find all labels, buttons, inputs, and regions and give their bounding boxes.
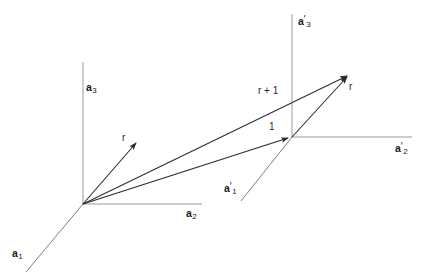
axis-label-a3p-subscript: 3 bbox=[306, 20, 311, 29]
axis-label-a2: a2 bbox=[186, 207, 197, 221]
axis-label-a3: a3 bbox=[86, 81, 97, 95]
vector-label-r-primed: r bbox=[349, 82, 352, 92]
vector-label-r-plus-one: r + 1 bbox=[258, 86, 278, 96]
axis-label-a1-prime-group: a′1 bbox=[224, 182, 237, 196]
diagram-canvas bbox=[0, 0, 426, 278]
primed-frame-axes bbox=[241, 14, 412, 201]
axis-label-a3-subscript: 3 bbox=[92, 86, 97, 95]
axis-label-a2-base: a bbox=[186, 207, 192, 219]
unprimed-frame-axes bbox=[26, 62, 202, 272]
axis-label-a1-base: a bbox=[12, 247, 18, 259]
vector-diagram-figure: a1 a2 a3 a′1 a′2 a′3 r 1 r + 1 r bbox=[0, 0, 426, 278]
vector-r-primed bbox=[292, 77, 347, 137]
axis-label-a2p-subscript: 2 bbox=[403, 147, 408, 156]
axis-label-a3-prime-group: a′3 bbox=[298, 15, 311, 29]
axis-label-a1p-subscript: 1 bbox=[232, 187, 237, 196]
axis-label-a1: a1 bbox=[12, 247, 23, 261]
vector-label-r-small: r bbox=[122, 133, 125, 143]
axis-line-a1-prime bbox=[241, 137, 292, 201]
vector-label-one: 1 bbox=[269, 122, 275, 132]
vector-one bbox=[83, 138, 288, 204]
axis-label-a2-prime-group: a′2 bbox=[395, 142, 408, 156]
axis-label-a3-base: a bbox=[86, 81, 92, 93]
axis-label-a1-subscript: 1 bbox=[18, 252, 23, 261]
axis-label-a2-subscript: 2 bbox=[192, 212, 197, 221]
vector-r-small bbox=[83, 143, 136, 204]
axis-line-a1 bbox=[26, 204, 83, 272]
